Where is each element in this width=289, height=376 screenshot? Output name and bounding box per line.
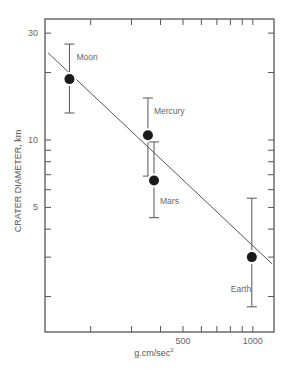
data-point-mercury: Mercury — [141, 98, 185, 176]
marker-dot — [149, 175, 159, 185]
marker-dot — [247, 252, 257, 262]
point-label: Mercury — [154, 106, 185, 116]
point-label: Moon — [76, 52, 98, 62]
data-point-earth: Earth — [231, 198, 259, 307]
data-point-moon: Moon — [62, 44, 98, 113]
x-tick-label: 500 — [175, 336, 190, 346]
regression-line — [48, 53, 272, 264]
marker-dot — [143, 130, 153, 140]
x-tick-label: 1000 — [243, 336, 263, 346]
y-tick-label: 10 — [28, 135, 38, 145]
y-axis-title: CRATER DIAMETER, km — [13, 130, 23, 232]
point-label: Mars — [160, 196, 179, 206]
chart-figure: 500100030105 MoonMercuryMarsEarth CRATER… — [0, 0, 289, 376]
y-tick-label: 30 — [28, 28, 38, 38]
x-axis-title: g.cm/sec2 — [134, 347, 174, 358]
tick-labels: 500100030105 — [28, 28, 263, 346]
data-point-mars: Mars — [147, 142, 179, 218]
marker-dot — [64, 74, 74, 84]
point-label: Earth — [231, 284, 252, 294]
data-points: MoonMercuryMarsEarth — [62, 44, 258, 307]
fit-line — [48, 53, 272, 264]
y-tick-label: 5 — [33, 202, 38, 212]
